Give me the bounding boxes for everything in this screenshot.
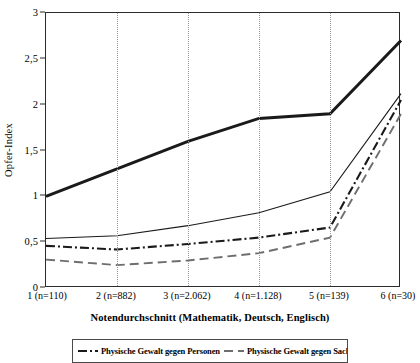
- gridline-vertical: [330, 13, 331, 286]
- legend-label: Physische Gewalt gegen Personen: [101, 346, 220, 356]
- gridline-vertical: [188, 13, 189, 286]
- x-axis-tick-label: 6 (n=30): [381, 290, 416, 301]
- x-axis: 1 (n=110)2 (n=882)3 (n=2.062)4 (n=1.128)…: [45, 290, 400, 306]
- x-axis-tick-label: 5 (n=139): [309, 290, 349, 301]
- legend-entry: Physische Gewalt gegen Sachen: [224, 346, 348, 356]
- gridline-vertical: [117, 13, 118, 286]
- y-axis-tick-label: 0,5: [25, 236, 38, 247]
- legend-label: Physische Gewalt gegen Sachen: [247, 346, 348, 356]
- y-axis-tick-label: 2: [33, 98, 38, 109]
- x-axis-tick-label: 1 (n=110): [27, 290, 66, 301]
- legend-entry: Physische Gewalt gegen Personen: [78, 346, 220, 356]
- series-line: [46, 94, 401, 239]
- gridline-vertical: [259, 13, 260, 286]
- legend-swatch-icon: [224, 347, 244, 355]
- x-axis-tick-label: 3 (n=2.062): [163, 290, 210, 301]
- chart-legend: Physische Gewalt gegen PersonenPhysische…: [72, 339, 348, 363]
- legend-swatch-icon: [78, 347, 98, 355]
- y-axis-tick-label: 1,5: [25, 144, 38, 155]
- x-axis-title: Notendurchschnitt (Mathematik, Deutsch, …: [0, 312, 420, 323]
- series-line: [46, 114, 401, 265]
- y-axis: 00,511,522,53: [0, 0, 45, 299]
- y-axis-tick-label: 2,5: [25, 52, 38, 63]
- y-axis-tick-label: 3: [33, 7, 38, 18]
- plot-lines: [46, 13, 401, 288]
- y-axis-tick-label: 1: [33, 190, 38, 201]
- x-axis-tick-label: 2 (n=882): [96, 290, 136, 301]
- series-line: [46, 41, 401, 197]
- plot-area: [45, 12, 400, 287]
- x-axis-tick-label: 4 (n=1.128): [234, 290, 281, 301]
